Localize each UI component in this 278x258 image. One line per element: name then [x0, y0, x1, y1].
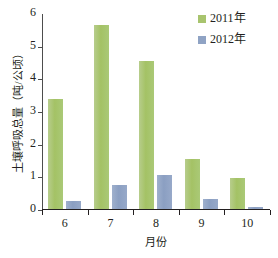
y-axis-tick-mark [38, 47, 42, 48]
y-axis-tick-labels: 0123456 [18, 8, 36, 214]
bar-2011年-10 [230, 178, 245, 209]
x-axis-tick-label: 8 [141, 216, 171, 230]
bar-2011年-6 [48, 99, 63, 210]
soil-respiration-bar-chart: 土壤呼吸总量（吨/公顷） 0123456 678910 月份 2011年2012… [0, 0, 278, 258]
legend-item[interactable]: 2012年 [198, 31, 272, 48]
y-axis-tick-label: 3 [18, 104, 36, 116]
y-axis-tick-mark [38, 79, 42, 80]
legend-label: 2012年 [210, 33, 246, 46]
x-axis-line [42, 209, 270, 210]
bar-2012年-9 [203, 199, 218, 209]
x-axis-title: 月份 [42, 236, 270, 249]
legend-swatch-icon [198, 15, 206, 23]
bar-2012年-6 [66, 201, 81, 209]
x-axis-tick-mark [224, 210, 225, 215]
bar-2011年-8 [139, 61, 154, 209]
y-axis-tick-label: 2 [18, 137, 36, 149]
y-axis-tick-label: 6 [18, 6, 36, 18]
x-axis-tick-mark [42, 210, 43, 215]
bar-group [89, 14, 135, 209]
bar-2012年-7 [112, 185, 127, 209]
legend-swatch-icon [198, 36, 206, 44]
y-axis-tick-mark [38, 145, 42, 146]
x-axis-tick-label: 7 [95, 216, 125, 230]
x-axis-tick-labels: 678910 [42, 216, 270, 232]
x-axis-tick-label: 6 [50, 216, 80, 230]
chart-legend: 2011年2012年 [198, 10, 272, 52]
legend-label: 2011年 [210, 12, 246, 25]
x-axis-tick-label: 9 [187, 216, 217, 230]
bar-2012年-8 [157, 175, 172, 209]
bar-2011年-7 [94, 25, 109, 209]
legend-item[interactable]: 2011年 [198, 10, 272, 27]
bar-2011年-9 [185, 159, 200, 209]
y-axis-tick-label: 1 [18, 169, 36, 181]
y-axis-tick-mark [38, 112, 42, 113]
bar-group [134, 14, 180, 209]
x-axis-tick-mark [133, 210, 134, 215]
y-axis-tick-label: 0 [18, 202, 36, 214]
x-axis-tick-mark [270, 210, 271, 215]
bar-2012年-10 [248, 207, 263, 209]
y-axis-tick-mark [38, 177, 42, 178]
y-axis-tick-label: 4 [18, 71, 36, 83]
y-axis-tick-label: 5 [18, 39, 36, 51]
x-axis-tick-label: 10 [232, 216, 262, 230]
x-axis-tick-mark [179, 210, 180, 215]
x-axis-tick-mark [88, 210, 89, 215]
bar-group [43, 14, 89, 209]
